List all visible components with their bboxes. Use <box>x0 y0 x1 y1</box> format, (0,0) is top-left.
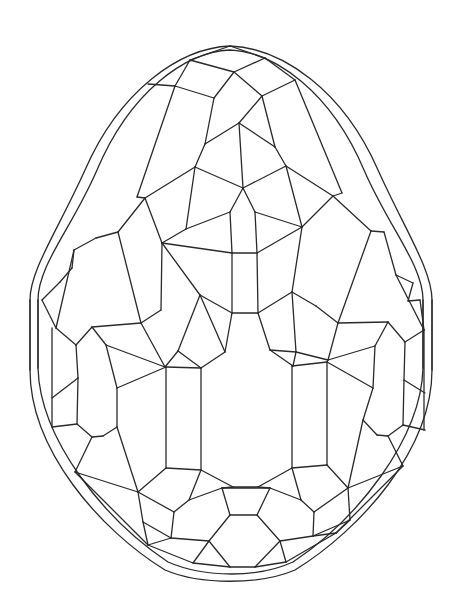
wire-edge <box>328 346 375 360</box>
wire-edge <box>209 515 230 541</box>
wire-edge <box>270 350 293 366</box>
polyhedron-edges <box>42 46 425 567</box>
wire-edge <box>171 512 174 538</box>
wire-edge <box>189 470 201 500</box>
wire-edge <box>205 123 239 144</box>
wire-edge <box>186 167 195 229</box>
wire-edge <box>145 198 162 243</box>
wire-edge <box>77 378 78 424</box>
wire-edge <box>327 465 348 488</box>
wire-edge <box>175 60 190 86</box>
wire-edge <box>239 96 262 123</box>
egg-wireframe-diagram <box>0 0 461 608</box>
wire-edge <box>265 58 295 80</box>
wire-edge <box>161 243 162 310</box>
wire-edge <box>255 212 302 227</box>
wire-edge <box>377 435 388 436</box>
wire-edge <box>338 231 371 323</box>
wire-edge <box>327 360 328 362</box>
wire-edge <box>138 468 166 492</box>
wire-edge <box>348 420 363 488</box>
wire-edge <box>243 166 286 188</box>
wire-edge <box>371 231 384 232</box>
wire-edge <box>200 295 232 313</box>
wire-edge <box>117 367 166 388</box>
wire-edge <box>257 515 280 541</box>
wire-edge <box>375 322 388 346</box>
wire-edge <box>314 488 348 512</box>
wire-edge <box>92 436 103 437</box>
wire-edge <box>348 466 403 488</box>
wire-edge <box>76 327 92 345</box>
wire-edge <box>301 500 314 512</box>
wire-edge <box>286 533 336 562</box>
egg-outline <box>30 46 432 581</box>
wire-edge <box>56 250 74 328</box>
wire-edge <box>230 188 243 212</box>
wire-edge <box>258 292 292 313</box>
wire-edge <box>336 466 403 533</box>
wire-edge <box>42 282 60 300</box>
wire-edge <box>148 545 193 563</box>
wire-edge <box>257 488 270 515</box>
wire-edge <box>333 196 371 231</box>
wire-edge <box>338 322 388 323</box>
wire-edge <box>373 346 375 388</box>
wire-edge <box>118 232 141 323</box>
wire-edge <box>270 488 301 500</box>
wire-edge <box>165 351 178 367</box>
wire-edge <box>75 437 92 472</box>
wire-edge <box>195 167 243 188</box>
wire-edge <box>189 488 222 500</box>
wire-edge <box>234 58 265 72</box>
wire-edge <box>42 300 56 328</box>
wire-edge <box>262 80 295 96</box>
wire-edge <box>201 470 233 487</box>
wire-edge <box>327 362 373 388</box>
wire-edge <box>138 492 143 522</box>
wire-edge <box>74 238 96 250</box>
wire-edge <box>384 232 396 275</box>
wire-edge <box>145 167 195 198</box>
wire-edge <box>292 465 327 468</box>
wire-edge <box>178 351 201 368</box>
wire-edge <box>193 563 230 567</box>
wire-edge <box>92 323 141 327</box>
wire-edge <box>141 323 165 367</box>
wire-edge <box>280 541 286 562</box>
wire-edge <box>162 243 200 295</box>
wire-edge <box>148 84 175 86</box>
wire-edge <box>255 212 257 253</box>
wire-edge <box>316 306 338 323</box>
wire-edge <box>118 198 145 232</box>
wire-edge <box>296 352 328 360</box>
wire-edge <box>171 538 209 541</box>
wire-edge <box>195 144 205 167</box>
wire-edge <box>388 425 403 436</box>
wire-edge <box>275 147 286 166</box>
wire-edge <box>52 424 77 427</box>
wire-edge <box>174 500 189 512</box>
wire-edge <box>143 522 171 538</box>
wire-edge <box>138 492 174 512</box>
wire-edge <box>52 378 78 398</box>
wire-edge <box>257 253 258 313</box>
wire-edge <box>225 313 232 352</box>
wire-edge <box>117 427 138 492</box>
wire-edge <box>186 212 230 229</box>
wire-edge <box>292 468 301 500</box>
wire-edge <box>141 310 161 323</box>
wire-edge <box>190 60 234 72</box>
wire-edge <box>214 72 234 98</box>
wire-edge <box>162 243 232 253</box>
wire-edge <box>106 345 117 388</box>
wire-edge <box>178 295 200 351</box>
wire-edge <box>292 292 316 306</box>
wire-edge <box>222 488 230 515</box>
wire-edge <box>403 380 404 425</box>
wire-edge <box>408 283 413 301</box>
wire-edge <box>280 536 313 541</box>
wire-edge <box>201 352 225 368</box>
wire-edge <box>363 420 377 435</box>
wire-edge <box>230 212 232 253</box>
